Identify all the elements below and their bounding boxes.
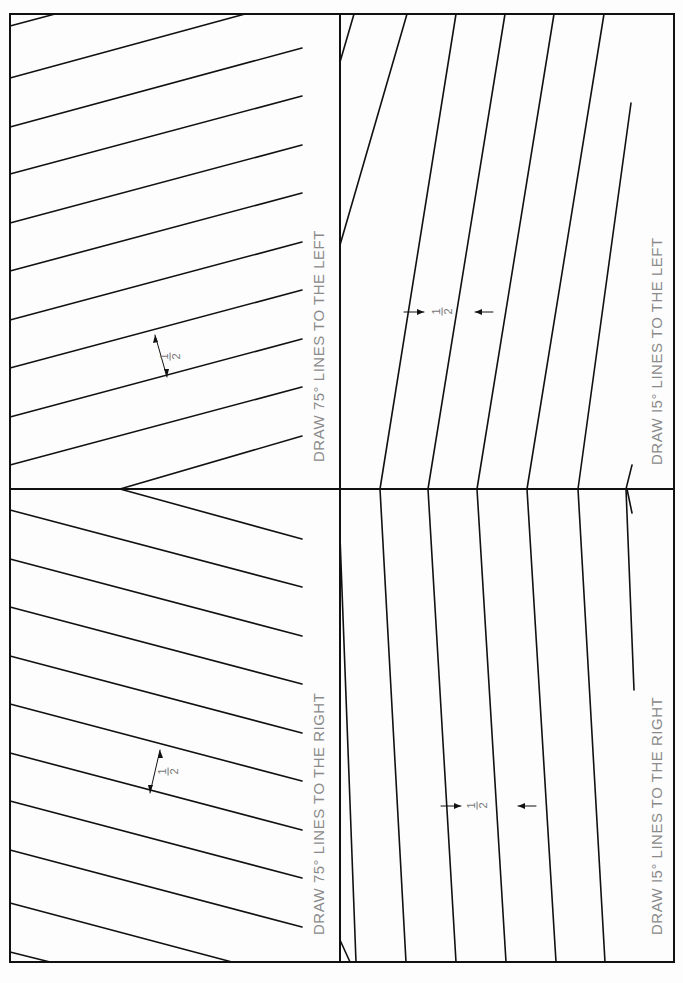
fraction-denominator: 2 (171, 352, 182, 360)
spacing-dimension-75-left: 1 2 (159, 352, 182, 360)
spacing-dimension-15-right: 1 2 (466, 801, 489, 809)
spacing-dimension-75-right: 1 2 (157, 767, 180, 775)
instruction-label-75-left: DRAW 75° LINES TO THE LEFT (310, 230, 327, 462)
instruction-label-15-right: DRAW I5° LINES TO THE RIGHT (648, 697, 665, 935)
hatch-lines-15-left (340, 14, 632, 489)
fraction-denominator: 2 (443, 307, 454, 315)
instruction-label-75-right: DRAW 75° LINES TO THE RIGHT (310, 693, 327, 935)
dimension-arrows (150, 312, 536, 806)
worksheet-drawing (0, 0, 683, 983)
fraction-denominator: 2 (169, 767, 180, 775)
drafting-worksheet: DRAW 75° LINES TO THE LEFT DRAW 75° LINE… (0, 0, 683, 983)
instruction-label-15-left: DRAW I5° LINES TO THE LEFT (648, 237, 665, 465)
hatch-lines-75-left (10, 14, 302, 489)
hatch-lines-75-right (10, 489, 302, 962)
spacing-dimension-15-left: 1 2 (431, 307, 454, 315)
fraction-denominator: 2 (478, 801, 489, 809)
hatch-lines-15-right (340, 489, 634, 962)
